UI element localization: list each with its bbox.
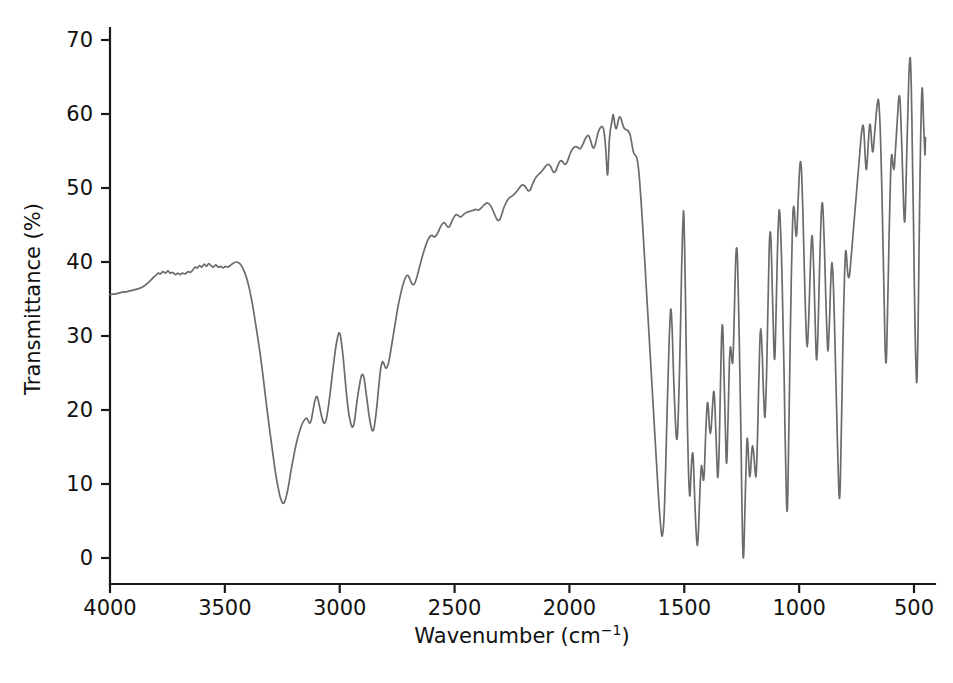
y-tick-label-0: 0 xyxy=(80,546,93,570)
x-tick-label-4000: 4000 xyxy=(83,596,136,620)
x-tick-label-2000: 2000 xyxy=(543,596,596,620)
spectrum-plot: 706050403020100 400035003000250020001500… xyxy=(0,0,953,683)
y-tick-label-70: 70 xyxy=(66,28,93,52)
y-tick-label-20: 20 xyxy=(66,398,93,422)
y-tick-label-30: 30 xyxy=(66,324,93,348)
figure-background xyxy=(0,0,953,683)
x-tick-label-3000: 3000 xyxy=(313,596,366,620)
x-tick-label-500: 500 xyxy=(894,596,934,620)
ir-spectrum-figure: 706050403020100 400035003000250020001500… xyxy=(0,0,953,683)
x-tick-label-2500: 2500 xyxy=(428,596,481,620)
x-tick-label-3500: 3500 xyxy=(198,596,251,620)
y-tick-label-60: 60 xyxy=(66,102,93,126)
y-tick-label-40: 40 xyxy=(66,250,93,274)
y-tick-label-50: 50 xyxy=(66,176,93,200)
x-tick-label-1500: 1500 xyxy=(658,596,711,620)
x-tick-label-1000: 1000 xyxy=(772,596,825,620)
x-axis-title: Wavenumber (cm−1) xyxy=(414,622,629,648)
y-tick-label-10: 10 xyxy=(66,472,93,496)
y-axis-title: Transmittance (%) xyxy=(21,203,45,396)
